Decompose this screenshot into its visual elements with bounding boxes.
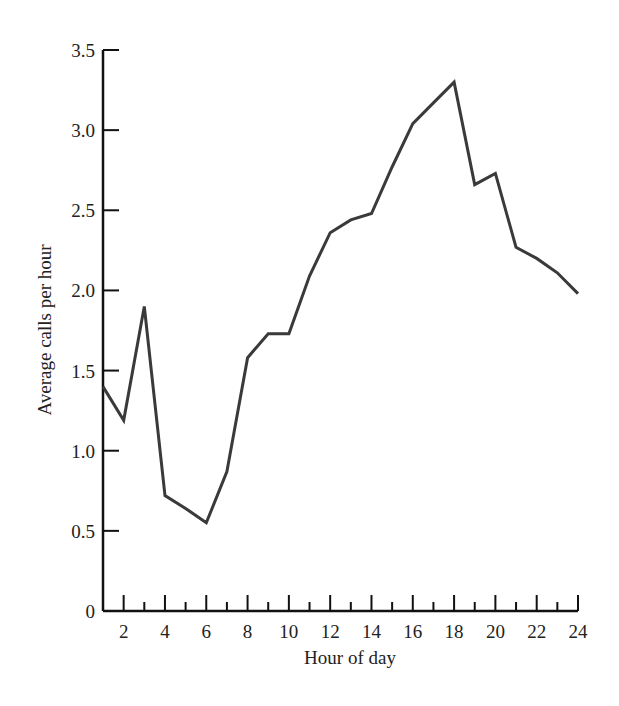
y-axis: 00.51.01.52.02.53.03.5 — [71, 40, 119, 622]
y-tick-label: 1.5 — [71, 361, 95, 382]
y-tick-label: 1.0 — [71, 441, 95, 462]
x-tick-label: 22 — [527, 621, 546, 642]
x-tick-label: 24 — [569, 621, 589, 642]
y-tick-label: 3.5 — [71, 40, 95, 61]
y-tick-label: 0 — [86, 601, 96, 622]
x-tick-label: 16 — [403, 621, 422, 642]
y-tick-label: 0.5 — [71, 521, 95, 542]
x-tick-label: 8 — [243, 621, 253, 642]
x-axis: 24681012141618202224 — [103, 595, 588, 642]
x-tick-label: 2 — [119, 621, 129, 642]
y-tick-label: 3.0 — [71, 120, 95, 141]
x-tick-label: 14 — [362, 621, 382, 642]
x-tick-label: 20 — [486, 621, 505, 642]
x-tick-label: 10 — [279, 621, 298, 642]
y-tick-label: 2.5 — [71, 200, 95, 221]
x-tick-label: 6 — [202, 621, 212, 642]
y-axis-title: Average calls per hour — [34, 244, 55, 416]
y-tick-label: 2.0 — [71, 280, 95, 301]
x-axis-title: Hour of day — [304, 647, 396, 668]
x-tick-label: 18 — [445, 621, 464, 642]
calls-per-hour-line — [103, 82, 578, 523]
line-chart: 00.51.01.52.02.53.03.5 24681012141618202… — [0, 0, 619, 706]
x-tick-label: 4 — [160, 621, 170, 642]
x-tick-label: 12 — [321, 621, 340, 642]
